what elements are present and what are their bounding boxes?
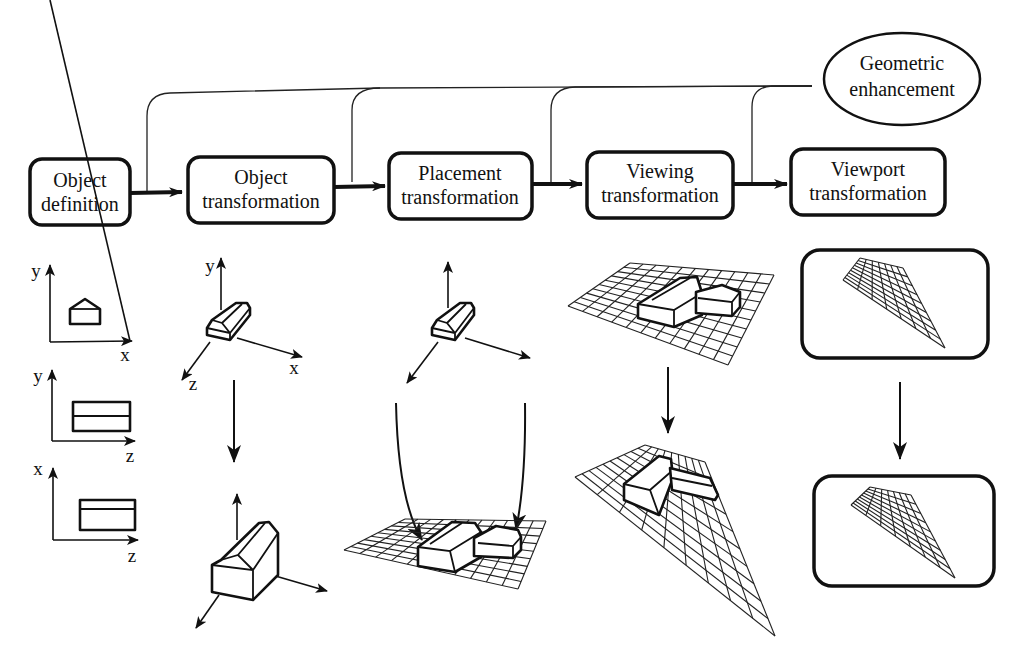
- object-scaled-coords: [196, 494, 327, 628]
- placement-local-coords: [407, 262, 530, 383]
- box-label-line2: transformation: [601, 184, 719, 206]
- box-label-line2: transformation: [401, 186, 519, 208]
- large-house-3d: [212, 522, 278, 600]
- object-local-coords: y x z: [182, 255, 302, 394]
- pipeline-box-viewing-transformation: Viewing transformation: [587, 152, 733, 218]
- pipeline-box-viewport-transformation: Viewport transformation: [791, 149, 945, 215]
- orthographic-view-side: y z: [33, 365, 135, 466]
- geometric-enhancement-node: Geometric enhancement: [824, 33, 980, 125]
- pipeline-box-object-definition: Object definition: [30, 159, 130, 225]
- orthographic-view-top: x z: [33, 458, 138, 566]
- box-label-line1: Object: [53, 169, 107, 192]
- axis-label-z: z: [189, 373, 197, 394]
- placement-arrow-right: [516, 403, 525, 530]
- viewport-screen-1: [802, 250, 988, 358]
- small-house-3d: [207, 303, 250, 340]
- axis-label-x: x: [120, 344, 130, 365]
- pipeline-box-placement-transformation: Placement transformation: [389, 153, 532, 219]
- pipeline-diagram: Geometric enhancement Object definition …: [0, 0, 1023, 654]
- box-label-line1: Viewing: [626, 160, 694, 183]
- box-label-line2: definition: [41, 193, 119, 215]
- axis-label-y: y: [205, 255, 215, 276]
- axis-label-y: y: [31, 260, 41, 281]
- viewing-houses: [638, 277, 740, 327]
- viewport-screen-2: [814, 476, 994, 586]
- box-label-line1: Viewport: [831, 158, 906, 181]
- box-label-line1: Placement: [418, 162, 502, 184]
- box-label-line1: Object: [234, 166, 288, 189]
- axis-label-z: z: [126, 445, 134, 466]
- enhancement-line1: Geometric: [860, 52, 945, 74]
- perspective-houses: [624, 456, 718, 515]
- axis-label-x: x: [33, 458, 43, 479]
- box-label-line2: transformation: [202, 190, 320, 212]
- small-house-3d-placement: [432, 303, 474, 340]
- enhancement-line2: enhancement: [849, 78, 955, 100]
- house-front-view: [70, 299, 100, 324]
- pipeline-box-object-transformation: Object transformation: [188, 157, 334, 223]
- house-top-view: [80, 500, 135, 530]
- box-label-line2: transformation: [809, 182, 927, 204]
- axis-label-z: z: [128, 545, 136, 566]
- axis-label-x: x: [289, 357, 299, 378]
- axis-label-y: y: [33, 365, 43, 386]
- placed-houses: [418, 522, 521, 572]
